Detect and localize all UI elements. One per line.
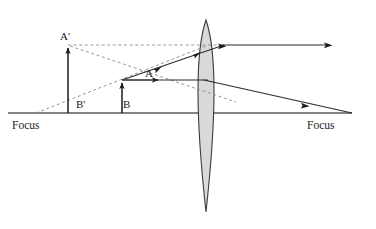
label-object-point: A xyxy=(145,68,153,79)
ray-diagram-canvas xyxy=(0,0,376,229)
label-image-base: B' xyxy=(76,99,85,110)
label-focus-right: Focus xyxy=(307,120,334,132)
label-focus-left: Focus xyxy=(12,120,39,132)
label-object-base: B xyxy=(123,99,130,110)
label-image-point: A' xyxy=(60,31,70,42)
optics-ray-diagram: A' B' A B Focus Focus xyxy=(0,0,376,229)
refracted-ray-to-focus xyxy=(204,80,352,113)
